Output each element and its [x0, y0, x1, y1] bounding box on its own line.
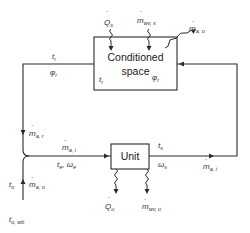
- arrow-into-unit-icon: [104, 154, 109, 159]
- label-t-o-wb: to, wb: [9, 215, 24, 225]
- label-q-u: Qu: [105, 202, 114, 212]
- label-t-r-left: tr: [52, 52, 57, 62]
- arrow-supply-right-icon: [209, 154, 214, 159]
- svg-text:·: ·: [140, 8, 142, 15]
- label-m-wv-s: mwv, s: [137, 16, 156, 26]
- svg-text:·: ·: [31, 122, 33, 129]
- svg-text:·: ·: [108, 194, 110, 201]
- unit-moisture-removal-arrow: [145, 169, 150, 194]
- arrow-q-u-icon: [114, 189, 119, 194]
- label-t-e-omega-e: te, ωe: [57, 160, 76, 170]
- unit-label: Unit: [121, 150, 140, 162]
- label-m-a-r: ma, r: [29, 129, 45, 139]
- conditioned-space-component: Conditioned space tr φr: [94, 37, 177, 90]
- arrow-m-wv-u-icon: [145, 189, 150, 194]
- conditioned-space-label-line1: Conditioned: [107, 51, 163, 63]
- svg-text:·: ·: [106, 8, 108, 15]
- unit-component: Unit: [111, 144, 149, 169]
- arrow-down-return-icon: [21, 130, 26, 135]
- label-m-wv-u: mwv, u: [142, 202, 161, 212]
- air-conditioning-schematic: Conditioned space tr φr Unit: [0, 0, 250, 233]
- label-t-o: to: [9, 180, 14, 190]
- outdoor-air-duct: [23, 156, 29, 200]
- conditioned-space-label-line2: space: [121, 65, 149, 77]
- wavy-line-m-wv-u-icon: [146, 169, 149, 190]
- label-m-a-i-out: ma, i: [203, 162, 218, 172]
- label-omega-s: ωs: [158, 160, 167, 170]
- label-t-s: ts: [158, 141, 163, 151]
- conditioned-space-box: [94, 37, 177, 90]
- arrow-into-space-icon: [179, 62, 184, 67]
- wavy-line-q-u-icon: [115, 169, 118, 190]
- arrow-up-outdoor-icon: [21, 179, 26, 184]
- unit-heat-removal-arrow: [114, 169, 119, 194]
- label-q-s: Qs: [104, 18, 113, 28]
- label-phi-r-left: φr: [50, 68, 58, 78]
- label-m-a-o-bottom: ma, o: [29, 180, 45, 190]
- label-m-a-i-in: ma, i: [62, 143, 77, 153]
- label-m-a-o-top: ma, o: [189, 24, 205, 34]
